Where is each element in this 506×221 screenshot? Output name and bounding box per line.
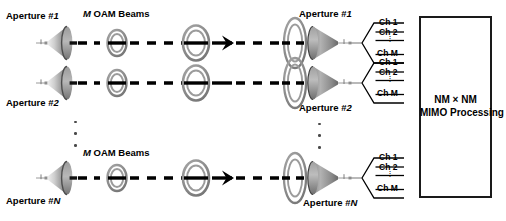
mimo-dimension-label: NM × NM bbox=[420, 95, 491, 105]
transmit-aperture-n-label: Aperture #N bbox=[6, 196, 60, 206]
transmit-chain-row-n bbox=[36, 161, 286, 196]
channel-label-n-m: Ch M bbox=[377, 184, 398, 193]
receive-aperture-n-label: Aperture #N bbox=[303, 198, 357, 208]
receive-aperture-2-label: Aperture #2 bbox=[299, 103, 352, 113]
receive-antenna-2 bbox=[308, 67, 352, 100]
transmit-chain-row-2 bbox=[36, 66, 286, 101]
receive-aperture-ellipsis bbox=[318, 118, 321, 153]
transmit-antenna-n bbox=[36, 162, 77, 195]
channel-ellipsis-n: ⋮ bbox=[385, 172, 395, 176]
transmit-antenna-1 bbox=[36, 27, 77, 60]
oam-beams-label-top: M OAM Beams bbox=[83, 9, 150, 19]
channel-label-2-1: Ch 1 bbox=[379, 58, 397, 67]
transmit-aperture-ellipsis bbox=[74, 116, 77, 151]
receive-antenna-1 bbox=[308, 27, 352, 60]
mimo-processing-label: MIMO Processing bbox=[420, 108, 491, 118]
transmit-antenna-2 bbox=[36, 67, 77, 100]
channel-ellipsis-2: ⋮ bbox=[385, 77, 395, 81]
receive-aperture-1-label: Aperture #1 bbox=[299, 9, 352, 19]
channel-label-1-1: Ch 1 bbox=[379, 18, 397, 27]
channel-label-2-m: Ch M bbox=[377, 89, 398, 98]
oam-beams-label-bottom: M OAM Beams bbox=[83, 148, 150, 158]
transmit-aperture-2-label: Aperture #2 bbox=[6, 98, 59, 108]
channel-label-n-1: Ch 1 bbox=[379, 153, 397, 162]
channel-ellipsis-1: ⋮ bbox=[385, 37, 395, 41]
transmit-chain-row-1 bbox=[36, 26, 286, 61]
transmit-aperture-1-label: Aperture #1 bbox=[6, 11, 59, 21]
receive-antenna-n bbox=[308, 162, 352, 195]
